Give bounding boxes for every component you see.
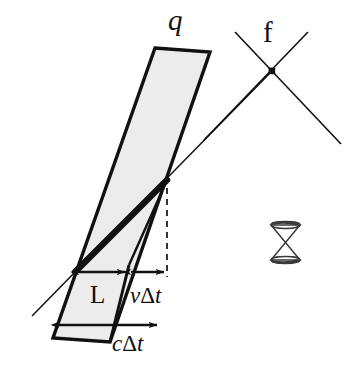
label-c-symbol: c — [112, 331, 122, 356]
label-c-t: t — [137, 331, 143, 356]
label-c-delta: Δ — [122, 331, 137, 356]
label-v-delta: Δ — [140, 283, 155, 308]
label-q: q — [168, 6, 183, 35]
x-crossing-line-nw-se — [235, 32, 341, 144]
label-v-t: t — [155, 283, 161, 308]
label-v-delta-t: vΔt — [130, 284, 161, 307]
crossing-point-dot — [269, 68, 276, 75]
bowtie-hourglass-glyph — [271, 222, 300, 264]
x-crossing-line-ne-sw — [204, 32, 308, 140]
physics-figure: q f L vΔt cΔt — [0, 0, 361, 370]
label-L: L — [90, 282, 105, 307]
figure-canvas — [0, 0, 361, 370]
label-f: f — [263, 18, 273, 47]
label-c-delta-t: cΔt — [112, 332, 143, 355]
label-v-symbol: v — [130, 283, 140, 308]
